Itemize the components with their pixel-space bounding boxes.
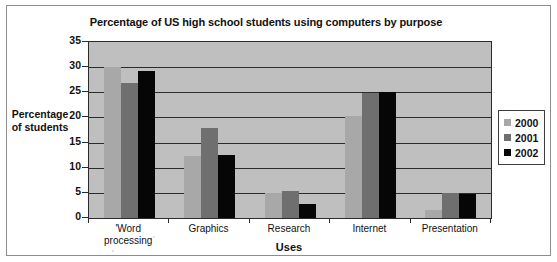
y-tick-label: 10 (55, 160, 81, 172)
gridline (89, 67, 491, 68)
x-category-label-line: 'Word (83, 223, 173, 235)
x-category-label: Presentation (405, 223, 495, 235)
legend-item-2000[interactable]: 2000 (504, 115, 540, 130)
y-tick-label: 30 (55, 59, 81, 71)
x-category-label: Internet (324, 223, 414, 235)
bar-presentation-2000 (425, 210, 442, 218)
chart-title: Percentage of US high school students us… (80, 16, 452, 28)
y-tick-label: 15 (55, 135, 81, 147)
legend-label: 2001 (515, 132, 538, 144)
bar-research-2002 (299, 204, 316, 218)
y-tick-label: 35 (55, 34, 81, 46)
x-category-label: Graphics (164, 223, 254, 235)
y-tick-mark (82, 167, 88, 168)
x-category-label-line: Presentation (405, 223, 495, 235)
x-category-label-line: Internet (324, 223, 414, 235)
bar-word-processing-2001 (121, 83, 138, 218)
plot-area (88, 41, 492, 219)
x-category-label-line: Graphics (164, 223, 254, 235)
x-tick-mark (329, 218, 330, 223)
legend-swatch-icon (504, 149, 511, 156)
legend-swatch-icon (504, 119, 511, 126)
bar-presentation-2002 (459, 194, 476, 218)
y-tick-mark (82, 66, 88, 67)
bar-presentation-2001 (442, 193, 459, 218)
bar-word-processing-2000 (104, 67, 121, 218)
y-tick-label: 20 (55, 109, 81, 121)
legend-item-2002[interactable]: 2002 (504, 145, 540, 160)
bar-graphics-2000 (184, 156, 201, 218)
bar-research-2000 (265, 193, 282, 218)
legend-label: 2002 (515, 147, 538, 159)
x-tick-mark (249, 218, 250, 223)
bar-research-2001 (282, 191, 299, 218)
bar-internet-2000 (345, 116, 362, 218)
bar-internet-2001 (362, 93, 379, 218)
x-tick-mark (168, 218, 169, 223)
bar-graphics-2002 (218, 155, 235, 218)
x-tick-mark (88, 218, 89, 223)
y-tick-mark (82, 142, 88, 143)
y-tick-label: 25 (55, 84, 81, 96)
legend-swatch-icon (504, 134, 511, 141)
x-category-label-line: Research (244, 223, 334, 235)
y-tick-mark (82, 41, 88, 42)
y-tick-label: 0 (55, 210, 81, 222)
y-tick-mark (82, 192, 88, 193)
bar-internet-2002 (379, 92, 396, 218)
y-tick-mark (82, 116, 88, 117)
y-tick-mark (82, 91, 88, 92)
bar-graphics-2001 (201, 128, 218, 219)
bar-word-processing-2002 (138, 71, 155, 218)
y-tick-label: 5 (55, 185, 81, 197)
legend-label: 2000 (515, 117, 538, 129)
x-tick-mark (490, 218, 491, 223)
y-axis-label-line-2: of students (8, 121, 72, 134)
x-category-label: Research (244, 223, 334, 235)
chart-legend: 200020012002 (498, 110, 545, 165)
legend-item-2001[interactable]: 2001 (504, 130, 540, 145)
x-tick-mark (410, 218, 411, 223)
chart-figure: Percentage of US high school students us… (0, 0, 557, 262)
x-axis-label: Uses (88, 241, 490, 253)
